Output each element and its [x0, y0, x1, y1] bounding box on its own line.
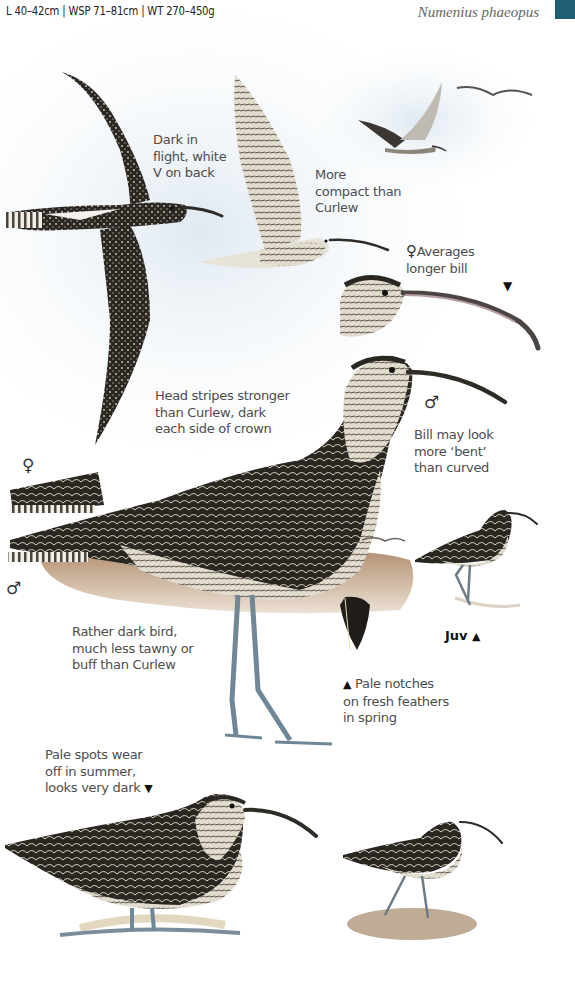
annotation-line: longer bill [406, 261, 474, 278]
male-symbol-icon: ♂ [6, 578, 21, 598]
bird-juvenile [415, 510, 537, 606]
feather-detail [340, 597, 370, 650]
annotation-line: compact than [315, 184, 401, 201]
annotation-line: buff than Curlew [72, 657, 193, 674]
annotation-line: Averages [417, 244, 475, 259]
annotation-line: much less tawny or [72, 641, 193, 658]
annotation-line: on fresh feathers [343, 694, 449, 711]
annotation-line: than Curlew, dark [155, 405, 290, 422]
annotation-line: in spring [343, 710, 449, 727]
annotation-line: Dark in [153, 132, 226, 149]
female-symbol: ♀ [406, 242, 417, 260]
triangle-down-icon: ▼ [144, 782, 152, 795]
triangle-down-icon: ▼ [503, 279, 512, 293]
scientific-name: Numenius phaeopus [418, 4, 539, 21]
bird-walking [343, 822, 502, 940]
annotation-line: Pale notches [355, 676, 434, 691]
annotation-line: each side of crown [155, 421, 290, 438]
tail-detail-female [10, 472, 104, 513]
bird-summer-worn [5, 794, 316, 935]
annotation-dark-bird: Rather dark bird, much less tawny or buf… [72, 624, 193, 674]
annotation-head-stripes: Head stripes stronger than Curlew, dark … [155, 388, 290, 438]
field-guide-page: L 40–42cm | WSP 71–81cm | WT 270–450g Nu… [0, 0, 575, 1000]
annotation-line: flight, white [153, 149, 226, 166]
section-tab [555, 0, 575, 19]
annotation-line: Bill may look [414, 427, 494, 444]
annotation-female-bill: ♀Averages longer bill [406, 243, 474, 277]
annotation-compact: More compact than Curlew [315, 167, 401, 217]
juv-text: Juv [445, 628, 468, 643]
annotation-line: more ‘bent’ [414, 444, 494, 461]
female-symbol-icon: ♀ [22, 455, 34, 475]
annotation-line: More [315, 167, 401, 184]
annotation-bill-bent: Bill may look more ‘bent’ than curved [414, 427, 494, 477]
juvenile-label: Juv ▲ [445, 628, 481, 643]
triangle-up-icon: ▲ [343, 678, 351, 691]
annotation-line: than curved [414, 460, 494, 477]
tail-detail-male [8, 552, 88, 562]
annotation-line: Rather dark bird, [72, 624, 193, 641]
annotation-pale-notches: ▲ Pale notches on fresh feathers in spri… [343, 676, 449, 727]
annotation-line: Pale spots wear [45, 747, 152, 764]
triangle-up-icon: ▲ [472, 630, 480, 643]
illustrations [0, 0, 575, 1000]
annotation-line: Curlew [315, 200, 401, 217]
male-symbol-icon: ♂ [424, 392, 439, 412]
measurements: L 40–42cm | WSP 71–81cm | WT 270–450g [6, 3, 215, 18]
annotation-line: off in summer, [45, 764, 152, 781]
annotation-flight-dark: Dark in flight, white V on back [153, 132, 226, 182]
annotation-line: looks very dark [45, 780, 140, 795]
annotation-line: Head stripes stronger [155, 388, 290, 405]
annotation-line: V on back [153, 165, 226, 182]
annotation-pale-spots: Pale spots wear off in summer, looks ver… [45, 747, 152, 798]
